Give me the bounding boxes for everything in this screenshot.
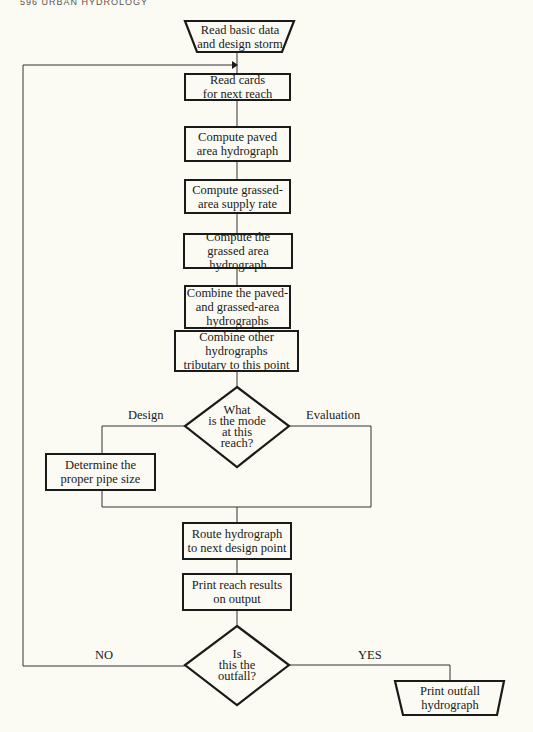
step-read-cards: Read cards for next reach — [184, 73, 291, 101]
step-line: on output — [213, 592, 261, 606]
step-line: Determine the — [65, 458, 136, 472]
step-compute-grassed-supply: Compute grassed- area supply rate — [184, 179, 291, 214]
end-label-line2: hydrograph — [421, 698, 479, 712]
step-print-reach-results: Print reach results on output — [182, 573, 292, 611]
step-determine-pipe-size: Determine the proper pipe size — [45, 453, 156, 491]
step-route-hydrograph: Route hydrograph to next design point — [182, 522, 292, 560]
branch-label-yes: YES — [358, 648, 382, 663]
step-line: Compute paved — [198, 130, 277, 144]
step-line: Route hydrograph — [192, 527, 283, 541]
decision-outfall-text: Is this the outfall? — [205, 649, 269, 682]
step-line: Read cards — [210, 73, 265, 87]
end-terminal: Print outfall hydrograph — [400, 683, 500, 713]
step-line: for next reach — [203, 87, 272, 101]
start-terminal: Read basic data and design storm — [190, 22, 290, 52]
decision-line: outfall? — [205, 671, 269, 682]
end-label-line1: Print outfall — [420, 684, 480, 698]
decision-mode-text: What is the mode at this reach? — [205, 405, 269, 449]
step-line: grassed area hydrograph — [185, 244, 291, 272]
step-combine-tributary: Combine other hydrographs tributary to t… — [174, 330, 299, 372]
step-line: Print reach results — [192, 578, 282, 592]
step-compute-paved: Compute paved area hydrograph — [184, 126, 291, 162]
step-compute-grassed-hydrograph: Compute the grassed area hydrograph — [183, 233, 293, 269]
start-label-line2: and design storm — [197, 37, 282, 51]
branch-label-no: NO — [95, 648, 113, 663]
start-label-line1: Read basic data — [201, 23, 279, 37]
step-line: Compute grassed- — [192, 183, 283, 197]
step-combine-paved-grassed: Combine the paved- and grassed-area hydr… — [184, 285, 291, 329]
branch-label-evaluation: Evaluation — [306, 408, 360, 423]
step-line: Compute the — [206, 230, 270, 244]
step-line: Combine the paved- — [187, 286, 288, 300]
step-line: to next design point — [188, 541, 287, 555]
step-line: area hydrograph — [197, 144, 279, 158]
step-line: tributary to this point — [184, 358, 290, 372]
step-line: Combine other hydrographs — [176, 330, 297, 358]
step-line: hydrographs — [206, 314, 269, 328]
step-line: and grassed-area — [196, 300, 280, 314]
step-line: area supply rate — [198, 197, 277, 211]
decision-line: reach? — [205, 438, 269, 449]
branch-label-design: Design — [128, 408, 163, 423]
step-line: proper pipe size — [61, 472, 141, 486]
